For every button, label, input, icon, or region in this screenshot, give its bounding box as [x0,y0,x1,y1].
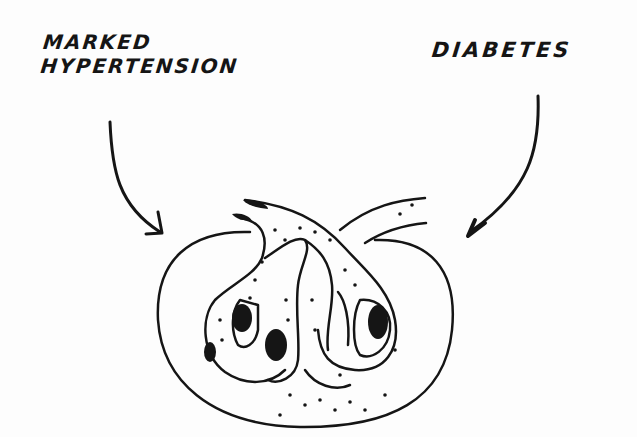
nodule-left [232,304,252,332]
glomerulus-drawing [0,0,637,437]
arrow-left-icon [110,122,160,232]
arrow-right-icon [470,96,538,232]
diagram-canvas: MARKED HYPERTENSION DIABETES [0,0,637,437]
nodule-right [368,305,388,339]
nodule-center [265,329,287,361]
